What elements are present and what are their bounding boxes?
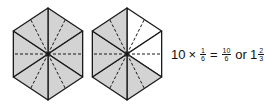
equals-sign: = [210,47,218,62]
or-word: or [235,47,247,62]
center-point [46,52,50,56]
fraction-two-thirds: 2 3 [258,47,264,62]
fraction-one-sixth: 1 6 [200,47,206,62]
hexagon-left [13,8,82,100]
times-sign: × [188,47,196,62]
whole-number: 10 [171,47,185,62]
fraction-ten-sixths: 10 6 [222,47,232,62]
center-point [125,52,129,56]
fraction-equation: 10 × 1 6 = 10 6 or 1 2 3 [171,44,265,64]
hexagon-right [92,8,161,100]
mixed-whole: 1 [250,47,257,62]
